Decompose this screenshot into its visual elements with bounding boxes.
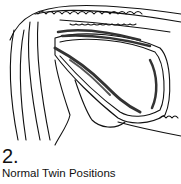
calf-lower xyxy=(55,48,140,112)
twin-position-illustration xyxy=(0,0,181,150)
uterus-outline xyxy=(55,34,170,123)
figure-number: 2. xyxy=(2,146,19,166)
figure: 2. Normal Twin Positions xyxy=(0,0,181,184)
tail xyxy=(11,30,26,140)
vertebrae xyxy=(38,12,142,15)
calf-upper xyxy=(58,30,150,46)
figure-caption: Normal Twin Positions xyxy=(2,166,116,180)
